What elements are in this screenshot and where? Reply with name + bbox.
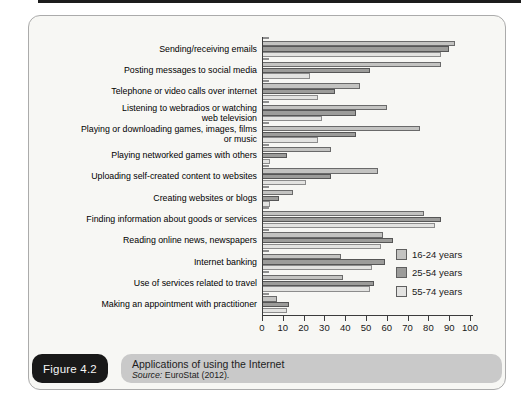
category-label: Posting messages to social media (26, 59, 257, 80)
category-label: Finding information about goods or servi… (26, 208, 257, 229)
bar (262, 95, 318, 100)
x-axis-tick (449, 316, 450, 321)
x-axis-tick (428, 316, 429, 321)
bar (262, 41, 455, 46)
bar (262, 83, 360, 88)
category-separator-tick (262, 165, 269, 167)
x-axis-tick (470, 316, 471, 321)
x-tick-label: 100 (457, 322, 483, 333)
bar (262, 286, 370, 291)
category-separator-tick (262, 293, 269, 295)
bar (262, 132, 356, 137)
category-label: Telephone or video calls over internet (26, 81, 257, 102)
bar (262, 217, 441, 222)
bar (262, 296, 277, 301)
bar (262, 281, 374, 286)
x-axis (262, 315, 474, 316)
bar (262, 174, 331, 179)
category-label: Internet banking (26, 251, 257, 272)
bar (262, 46, 449, 51)
category-label: Uploading self-created content to websit… (26, 166, 257, 187)
bar (262, 275, 343, 280)
bar (262, 110, 356, 115)
bar (262, 190, 293, 195)
caption-bar: Applications of using the Internet Sourc… (121, 354, 502, 383)
category-separator-tick (262, 186, 269, 188)
figure-label-badge: Figure 4.2 (32, 354, 108, 383)
bar (262, 223, 435, 228)
legend-item: 55-74 years (396, 286, 462, 297)
category-label: Listening to webradios or watching web t… (26, 102, 257, 123)
bar (262, 116, 322, 121)
legend-swatch (396, 249, 407, 260)
bar (262, 254, 341, 259)
bar (262, 73, 310, 78)
category-separator-tick (262, 58, 269, 60)
x-axis-tick (387, 316, 388, 321)
legend-item: 25-54 years (396, 267, 462, 278)
bar (262, 137, 318, 142)
category-separator-tick (262, 37, 269, 39)
bar (262, 211, 424, 216)
category-label: Sending/receiving emails (26, 38, 257, 59)
category-separator-tick (262, 80, 269, 82)
bar (262, 302, 289, 307)
bar (262, 196, 279, 201)
page-edge-line (38, 0, 521, 3)
bar (262, 180, 306, 185)
bar (262, 259, 385, 264)
source-text: EuroStat (2012). (162, 370, 229, 380)
bar (262, 62, 441, 67)
x-axis-tick (345, 316, 346, 321)
x-axis-tick (366, 316, 367, 321)
bar (262, 52, 441, 57)
x-axis-tick (262, 316, 263, 321)
legend-swatch (396, 267, 407, 278)
bar (262, 201, 270, 206)
legend-swatch (396, 286, 407, 297)
x-axis-tick (408, 316, 409, 321)
figure-label: Figure 4.2 (43, 363, 97, 375)
bar (262, 232, 383, 237)
legend-label: 25-54 years (412, 267, 462, 278)
figure-title: Applications of using the Internet (132, 358, 502, 370)
bar (262, 159, 270, 164)
bar (262, 244, 381, 249)
source-prefix: Source: (132, 370, 162, 380)
category-label: Creating websites or blogs (26, 187, 257, 208)
bar (262, 68, 370, 73)
category-separator-tick (262, 207, 269, 209)
category-separator-tick (262, 122, 269, 124)
category-label: Playing or downloading games, images, fi… (26, 123, 257, 144)
category-separator-tick (262, 250, 269, 252)
bar (262, 89, 335, 94)
category-separator-tick (262, 101, 269, 103)
category-separator-tick (262, 229, 269, 231)
category-label: Making an appointment with practitioner (26, 294, 257, 315)
bar (262, 105, 387, 110)
x-axis-tick (283, 316, 284, 321)
category-label: Use of services related to travel (26, 272, 257, 293)
figure-source: Source: EuroStat (2012). (132, 370, 502, 380)
legend-label: 16-24 years (412, 249, 462, 260)
bar (262, 265, 372, 270)
category-separator-tick (262, 144, 269, 146)
legend-item: 16-24 years (396, 249, 462, 260)
category-label: Reading online news, newspapers (26, 230, 257, 251)
bar (262, 147, 331, 152)
y-axis (262, 37, 263, 316)
bar (262, 238, 393, 243)
category-separator-tick (262, 271, 269, 273)
legend-label: 55-74 years (412, 286, 462, 297)
x-axis-tick (304, 316, 305, 321)
figure-scan: Sending/receiving emailsPosting messages… (0, 0, 530, 413)
bar (262, 308, 287, 313)
bar (262, 126, 420, 131)
bar (262, 168, 378, 173)
x-axis-tick (324, 316, 325, 321)
category-label: Playing networked games with others (26, 145, 257, 166)
bar (262, 153, 287, 158)
